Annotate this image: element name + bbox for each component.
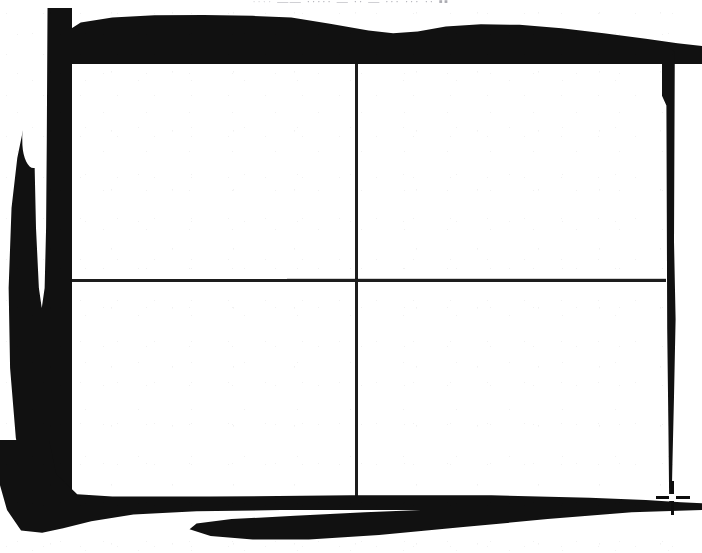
- scanned-page: ···· —— ····· — ·· — ··· ··· ·· ▪▪: [0, 0, 702, 553]
- top-scan-shadow: [0, 8, 702, 64]
- right-scan-shadow: [662, 18, 702, 504]
- header-fragment-mid: —— ·····: [277, 0, 332, 7]
- empty-table: [57, 57, 666, 497]
- clipped-header-text: ···· —— ····· — ·· — ··· ··· ·· ▪▪: [0, 0, 702, 7]
- header-fragment-left: ····: [252, 0, 273, 7]
- header-fragment-right: — ·· — ··· ··· ·· ▪▪: [337, 0, 450, 7]
- table-column-divider: [355, 57, 358, 497]
- registration-cross: [656, 481, 690, 515]
- table-row-divider: [57, 279, 666, 282]
- registration-cross-center: [669, 494, 676, 501]
- left-shadow-teardrop-notch: [20, 105, 45, 168]
